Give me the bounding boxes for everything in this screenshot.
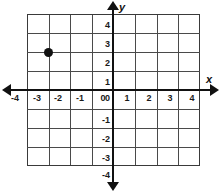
y-axis-down-arrow-icon [107, 182, 119, 191]
y-tick-label: -3 [96, 153, 110, 163]
coordinate-plane: x y -4 -3 -2 -1 0 1 2 3 4 4 3 2 1 0 -1 -… [0, 0, 221, 193]
y-tick-label: -1 [96, 115, 110, 125]
x-axis-right-arrow-icon [210, 84, 219, 96]
y-tick-label: 3 [96, 39, 110, 49]
x-tick-label: 4 [182, 93, 202, 103]
x-tick-label: -4 [5, 93, 25, 103]
x-tick-label: 2 [139, 93, 159, 103]
plotted-point [44, 48, 53, 57]
y-tick-label: -4 [96, 170, 110, 180]
y-tick-label: 1 [96, 77, 110, 87]
x-tick-label: 1 [117, 93, 137, 103]
y-axis-label: y [119, 2, 125, 13]
x-axis-label: x [206, 74, 212, 85]
x-tick-label: -1 [70, 93, 90, 103]
x-tick-label: -2 [48, 93, 68, 103]
x-axis-line [8, 89, 213, 91]
y-tick-label: 4 [96, 20, 110, 30]
y-tick-label: -2 [96, 134, 110, 144]
x-tick-label: -3 [27, 93, 47, 103]
y-axis-up-arrow-icon [107, 1, 119, 10]
y-tick-label: 2 [96, 58, 110, 68]
y-tick-label: 0 [96, 93, 110, 103]
x-tick-label: 3 [160, 93, 180, 103]
